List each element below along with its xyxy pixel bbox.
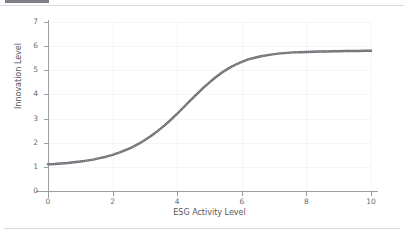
gridline-vertical bbox=[242, 22, 243, 191]
x-tick-label: 0 bbox=[36, 198, 60, 206]
y-tick-mark bbox=[44, 167, 48, 168]
x-tick-mark bbox=[48, 192, 49, 196]
y-tick-label: 3 bbox=[24, 115, 38, 123]
y-tick-mark bbox=[44, 143, 48, 144]
y-tick-label: 5 bbox=[24, 66, 38, 74]
x-tick-mark bbox=[177, 192, 178, 196]
x-tick-mark bbox=[371, 192, 372, 196]
gridline-horizontal bbox=[48, 70, 371, 71]
gridline-vertical bbox=[113, 22, 114, 191]
y-tick-label: 6 bbox=[24, 42, 38, 50]
y-tick-label: 0 bbox=[24, 187, 38, 195]
y-tick-mark bbox=[44, 70, 48, 71]
gridline-horizontal bbox=[48, 22, 371, 23]
gridline-vertical bbox=[371, 22, 372, 191]
x-axis-spine bbox=[36, 191, 378, 192]
chart-figure: 01234567 0246810 ESG Activity Level Inno… bbox=[0, 6, 404, 227]
x-tick-label: 6 bbox=[230, 198, 254, 206]
gridline-horizontal bbox=[48, 119, 371, 120]
y-tick-label: 2 bbox=[24, 139, 38, 147]
x-tick-mark bbox=[242, 192, 243, 196]
y-tick-label: 1 bbox=[24, 163, 38, 171]
y-tick-mark bbox=[44, 46, 48, 47]
x-tick-label: 10 bbox=[359, 198, 383, 206]
window-tab-stub bbox=[5, 0, 49, 3]
y-tick-label: 7 bbox=[24, 18, 38, 26]
x-axis-title: ESG Activity Level bbox=[48, 209, 371, 217]
bottom-divider bbox=[4, 228, 400, 229]
y-tick-label: 4 bbox=[24, 90, 38, 98]
y-tick-mark bbox=[44, 119, 48, 120]
x-tick-mark bbox=[113, 192, 114, 196]
x-tick-label: 8 bbox=[294, 198, 318, 206]
gridline-horizontal bbox=[48, 167, 371, 168]
y-axis-title: Innovation Level bbox=[15, 11, 23, 141]
screenshot-root: 01234567 0246810 ESG Activity Level Inno… bbox=[0, 0, 404, 238]
y-tick-mark bbox=[44, 94, 48, 95]
gridline-horizontal bbox=[48, 143, 371, 144]
gridline-horizontal bbox=[48, 46, 371, 47]
gridline-horizontal bbox=[48, 94, 371, 95]
x-tick-mark bbox=[306, 192, 307, 196]
x-tick-label: 4 bbox=[165, 198, 189, 206]
x-tick-label: 2 bbox=[101, 198, 125, 206]
y-tick-mark bbox=[44, 22, 48, 23]
y-axis-spine bbox=[48, 20, 49, 198]
plot-area bbox=[48, 22, 371, 191]
gridline-vertical bbox=[306, 22, 307, 191]
gridline-vertical bbox=[177, 22, 178, 191]
